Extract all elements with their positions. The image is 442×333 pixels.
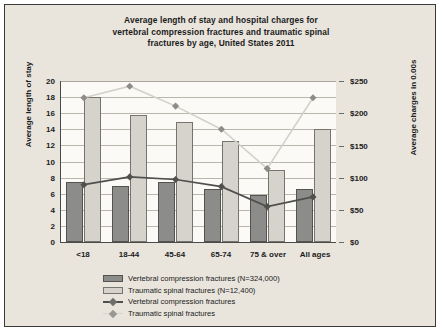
right-tick-mark xyxy=(339,242,344,243)
legend-label-vertebral-bar: Vertebral compression fractures (N=324,0… xyxy=(128,274,280,283)
y-axis-left-title: Average length of stay xyxy=(24,30,33,180)
legend-label-vertebral-line: Vertebral compression fractures xyxy=(128,297,235,306)
x-tick-lt18: <18 xyxy=(60,250,106,259)
y-tick-right-50: $50 xyxy=(350,206,384,215)
y-tick-left-0: 0 xyxy=(29,238,55,247)
x-tick-18-44: 18-44 xyxy=(106,250,152,259)
line-vertebral-charges xyxy=(84,177,313,207)
x-tick-65-74: 65-74 xyxy=(198,250,244,259)
right-tick-mark xyxy=(339,81,344,82)
y-tick-right-250: $250 xyxy=(350,77,384,86)
legend-swatch-dark-bar-icon xyxy=(103,275,123,282)
right-tick-mark xyxy=(339,178,344,179)
chart-frame: Average length of stay and hospital char… xyxy=(4,4,436,327)
y-tick-left-14: 14 xyxy=(29,125,55,134)
y-tick-left-16: 16 xyxy=(29,109,55,118)
chart-title: Average length of stay and hospital char… xyxy=(5,15,437,50)
chart-title-line-3: fractures by age, United States 2011 xyxy=(5,38,437,50)
legend-marker-light-line-icon xyxy=(103,309,123,318)
chart-title-line-1: Average length of stay and hospital char… xyxy=(5,15,437,27)
y-tick-left-8: 8 xyxy=(29,174,55,183)
y-tick-right-0: $0 xyxy=(350,238,384,247)
y-tick-left-6: 6 xyxy=(29,190,55,199)
y-tick-left-18: 18 xyxy=(29,93,55,102)
legend-item-vertebral-bar: Vertebral compression fractures (N=324,0… xyxy=(103,273,280,285)
legend-marker-dark-line-icon xyxy=(103,297,123,306)
y-tick-left-4: 4 xyxy=(29,206,55,215)
marker-traumatic-charges xyxy=(80,83,316,172)
line-series-overlay xyxy=(61,81,336,242)
legend-label-traumatic-bar: Traumatic spinal fractures (N=12,400) xyxy=(128,286,255,295)
plot-area xyxy=(60,81,336,243)
y-tick-right-100: $100 xyxy=(350,174,384,183)
legend-item-traumatic-line: Traumatic spinal fractures xyxy=(103,308,280,320)
right-tick-mark xyxy=(339,146,344,147)
line-traumatic-charges xyxy=(84,86,313,168)
chart-title-line-2: vertebral compression fractures and trau… xyxy=(5,27,437,39)
y-axis-right-title: Average charges in 0.00s xyxy=(409,33,418,183)
y-tick-left-12: 12 xyxy=(29,141,55,150)
right-tick-mark xyxy=(339,113,344,114)
legend-item-traumatic-bar: Traumatic spinal fractures (N=12,400) xyxy=(103,285,280,297)
y-tick-left-10: 10 xyxy=(29,158,55,167)
legend-item-vertebral-line: Vertebral compression fractures xyxy=(103,296,280,308)
y-tick-right-200: $200 xyxy=(350,109,384,118)
legend-swatch-light-bar-icon xyxy=(103,287,123,294)
x-tick-all-ages: All ages xyxy=(291,250,339,259)
y-tick-left-2: 2 xyxy=(29,222,55,231)
y-tick-left-20: 20 xyxy=(29,77,55,86)
y-tick-right-150: $150 xyxy=(350,142,384,151)
legend-label-traumatic-line: Traumatic spinal fractures xyxy=(128,309,215,318)
right-tick-mark xyxy=(339,210,344,211)
x-tick-45-64: 45-64 xyxy=(152,250,198,259)
x-tick-75-over: 75 & over xyxy=(243,250,293,259)
chart-legend: Vertebral compression fractures (N=324,0… xyxy=(103,273,280,319)
